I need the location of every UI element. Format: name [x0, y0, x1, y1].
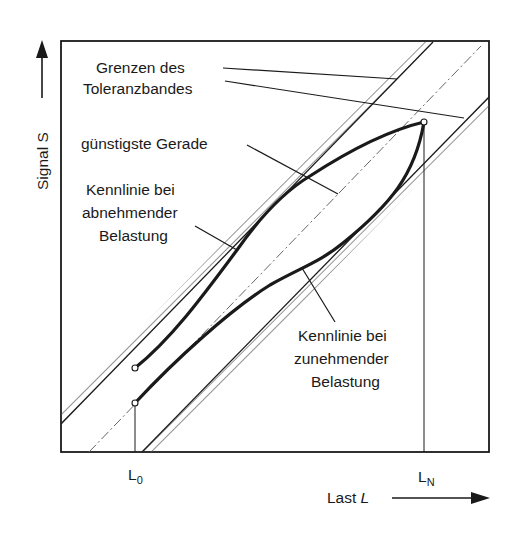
- leader-tolerance-lower: [225, 81, 464, 118]
- label-increasing-line2: zunehmender: [294, 350, 389, 367]
- end-point-ln: [421, 119, 427, 125]
- svg-text:L0: L0: [128, 466, 143, 486]
- start-point-increasing: [132, 400, 138, 406]
- label-decreasing-line3: Belastung: [99, 227, 168, 244]
- label-tolerance-line1: Grenzen des: [96, 59, 185, 76]
- svg-text:LN: LN: [418, 468, 435, 488]
- leader-tolerance-upper: [223, 68, 397, 79]
- label-decreasing-line2: abnehmender: [82, 204, 178, 221]
- label-increasing-line3: Belastung: [311, 373, 380, 390]
- x-axis-arrow: [392, 492, 490, 504]
- x-tick-ln: LN: [418, 468, 435, 488]
- label-increasing-line1: Kennlinie bei: [298, 327, 387, 344]
- label-decreasing-line1: Kennlinie bei: [86, 181, 175, 198]
- y-axis-arrow: [36, 40, 48, 98]
- x-tick-l0: L0: [128, 466, 143, 486]
- label-tolerance-line2: Toleranzbandes: [83, 80, 193, 97]
- label-best-line: günstigste Gerade: [81, 135, 208, 152]
- y-axis-label: Signal S: [34, 132, 51, 190]
- tolerance-band-diagram: Signal S Grenzen des Toleranzbandes güns…: [0, 0, 520, 537]
- start-point-decreasing: [132, 365, 138, 371]
- x-axis-label: Last L: [327, 489, 369, 506]
- plot-frame: [61, 41, 489, 452]
